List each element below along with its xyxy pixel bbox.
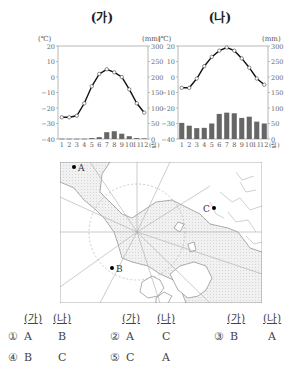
month-label: 7 bbox=[225, 141, 229, 149]
option-3-na: A bbox=[268, 330, 276, 343]
left-tick-label: 20 bbox=[167, 43, 175, 51]
left-tick-label: −40 bbox=[161, 136, 175, 144]
left-tick-label: 0 bbox=[171, 74, 175, 82]
precip-bar bbox=[97, 137, 102, 139]
temperature-point bbox=[188, 86, 191, 89]
temperature-point bbox=[83, 102, 86, 105]
point-a-label: A bbox=[77, 163, 85, 173]
precip-bar bbox=[224, 113, 229, 139]
month-label: 12 bbox=[140, 141, 148, 149]
precip-bar bbox=[74, 139, 79, 140]
month-label: 4 bbox=[82, 141, 86, 149]
month-label: 1 bbox=[180, 141, 184, 149]
left-tick-label: 10 bbox=[47, 58, 55, 66]
month-label: 7 bbox=[105, 141, 109, 149]
point-b-marker bbox=[110, 266, 114, 270]
temperature-point bbox=[195, 77, 198, 80]
point-c-label: C bbox=[203, 204, 210, 214]
precip-bar bbox=[202, 128, 207, 139]
left-tick-label: 0 bbox=[51, 74, 55, 82]
plot-frame bbox=[58, 46, 148, 139]
header-ga-3: (가) bbox=[227, 310, 245, 325]
right-tick-label: 250 bbox=[271, 58, 283, 66]
month-label: 8 bbox=[112, 141, 116, 149]
precip-bar bbox=[232, 113, 237, 139]
option-3-number: ③ bbox=[214, 330, 224, 343]
temperature-line bbox=[62, 69, 145, 117]
precip-bar bbox=[104, 132, 109, 139]
month-label: 12 bbox=[260, 141, 268, 149]
month-label: 6 bbox=[97, 141, 101, 149]
left-tick-label: −10 bbox=[41, 89, 55, 97]
answer-options: (가) (나) (가) (나) (가) (나) ① A B ② A C ③ B … bbox=[0, 308, 291, 371]
month-label: 2 bbox=[67, 141, 71, 149]
option-2-number: ② bbox=[110, 330, 120, 343]
right-tick-label: 100 bbox=[271, 105, 283, 113]
option-2-na: C bbox=[162, 330, 170, 343]
option-3-ga: B bbox=[230, 330, 238, 343]
header-ga-1: (가) bbox=[24, 310, 42, 325]
option-1-na: B bbox=[58, 330, 66, 343]
precip-bar bbox=[142, 138, 147, 139]
precip-bar bbox=[209, 124, 214, 140]
left-tick-label: −20 bbox=[41, 105, 55, 113]
temperature-point bbox=[218, 49, 221, 52]
precip-bar bbox=[194, 128, 199, 139]
left-tick-label: −20 bbox=[161, 105, 175, 113]
temperature-point bbox=[75, 114, 78, 117]
precip-bar bbox=[112, 131, 117, 139]
right-tick-label: 300 bbox=[271, 43, 283, 51]
temperature-point bbox=[203, 64, 206, 67]
month-label: 4 bbox=[202, 141, 206, 149]
month-label: 3 bbox=[75, 141, 79, 149]
precip-bar bbox=[239, 118, 244, 139]
left-tick-label: 20 bbox=[47, 43, 55, 51]
left-tick-label: −10 bbox=[161, 89, 175, 97]
temperature-line bbox=[182, 48, 264, 88]
temperature-point bbox=[90, 85, 93, 88]
point-c-marker bbox=[212, 206, 216, 210]
point-a-marker bbox=[72, 165, 76, 169]
left-tick-label: 10 bbox=[167, 58, 175, 66]
temperature-point bbox=[135, 102, 138, 105]
temperature-point bbox=[60, 116, 63, 119]
temperature-point bbox=[225, 46, 228, 49]
temperature-point bbox=[248, 66, 251, 69]
temperature-point bbox=[255, 77, 258, 80]
precip-bar bbox=[254, 122, 259, 139]
header-na-1: (나) bbox=[53, 310, 71, 325]
temperature-point bbox=[128, 88, 131, 91]
precip-bar bbox=[179, 123, 184, 139]
header-na-3: (나) bbox=[263, 310, 281, 325]
temperature-point bbox=[233, 49, 236, 52]
month-label: 3 bbox=[195, 141, 199, 149]
right-tick-label: 150 bbox=[271, 89, 283, 97]
month-unit: (월) bbox=[269, 141, 280, 148]
temperature-point bbox=[143, 111, 146, 114]
option-5-ga: C bbox=[126, 351, 134, 364]
climate-chart-na: (℃)(mm)20100−10−20−30−403002502001501005… bbox=[151, 30, 291, 155]
temperature-point bbox=[210, 55, 213, 58]
precip-bar bbox=[82, 139, 87, 140]
precip-bar bbox=[217, 114, 222, 139]
month-label: 1 bbox=[60, 141, 64, 149]
temperature-point bbox=[105, 68, 108, 71]
option-4-ga: B bbox=[24, 351, 32, 364]
precip-bar bbox=[119, 134, 124, 139]
right-tick-label: 50 bbox=[271, 120, 279, 128]
temperature-point bbox=[68, 116, 71, 119]
month-label: 8 bbox=[232, 141, 236, 149]
month-label: 5 bbox=[90, 141, 94, 149]
right-tick-label: 200 bbox=[271, 74, 283, 82]
month-label: 6 bbox=[217, 141, 221, 149]
chart-na-title: (나) bbox=[200, 8, 240, 25]
header-na-2: (나) bbox=[157, 310, 175, 325]
left-tick-label: −30 bbox=[41, 120, 55, 128]
option-4-na: C bbox=[58, 351, 66, 364]
precip-bar bbox=[127, 136, 132, 139]
month-label: 9 bbox=[120, 141, 124, 149]
precip-bar bbox=[134, 138, 139, 139]
temperature-point bbox=[240, 57, 243, 60]
month-label: 5 bbox=[210, 141, 214, 149]
temperature-point bbox=[113, 71, 116, 74]
